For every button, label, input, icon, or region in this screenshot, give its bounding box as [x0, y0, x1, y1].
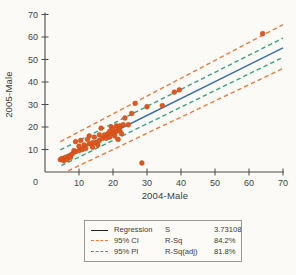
data-point — [83, 146, 88, 151]
data-point — [78, 138, 83, 143]
data-point — [126, 122, 131, 127]
data-point — [145, 104, 150, 109]
data-point — [129, 111, 134, 116]
data-point — [73, 139, 78, 144]
plot-svg: 10203040506070102030405060700 — [0, 0, 296, 215]
stat-value-rsq: 84.2% — [214, 237, 236, 245]
data-point — [87, 134, 92, 139]
ci-line-sample — [91, 240, 108, 241]
y-tick-label: 40 — [28, 77, 38, 87]
y-tick-label: 30 — [28, 100, 38, 110]
data-point — [90, 145, 95, 150]
pi-lower-line — [61, 57, 283, 165]
legend-label-ci: 95% CI — [114, 237, 165, 245]
ci-lower-line — [68, 69, 283, 171]
pi-upper-line — [60, 38, 283, 150]
stat-name-rsq: R-Sq — [165, 237, 214, 245]
data-point — [95, 143, 100, 148]
ci-upper-line — [60, 25, 283, 142]
regression-line-sample — [91, 230, 108, 231]
data-point — [119, 131, 124, 136]
x-axis-title: 2004-Male — [120, 190, 210, 201]
data-point — [123, 116, 128, 121]
data-point — [92, 135, 97, 140]
stat-value-s: 3.73108 — [214, 226, 241, 234]
y-tick-label: 20 — [28, 122, 38, 132]
x-tick-label: 70 — [278, 178, 288, 188]
y-tick-label: 10 — [28, 145, 38, 155]
origin-tick-label: 0 — [33, 177, 38, 187]
data-point — [121, 122, 126, 127]
data-point — [177, 87, 182, 92]
data-point — [99, 126, 104, 131]
legend-row-pi: 95% PI R-Sq(adj) 81.8% — [91, 248, 235, 256]
data-point — [116, 137, 121, 142]
legend-row-ci: 95% CI R-Sq 84.2% — [91, 237, 235, 245]
x-tick-label: 40 — [176, 178, 186, 188]
x-tick-label: 60 — [244, 178, 254, 188]
y-tick-label: 70 — [28, 10, 38, 20]
x-tick-label: 20 — [108, 178, 118, 188]
stat-name-rsqadj: R-Sq(adj) — [165, 248, 214, 256]
data-point — [172, 90, 177, 95]
data-point — [260, 31, 265, 36]
legend-box: Regression S 3.73108 95% CI R-Sq 84.2% 9… — [84, 220, 242, 262]
pi-line-sample — [91, 251, 108, 252]
data-point — [140, 161, 145, 166]
x-tick-label: 30 — [142, 178, 152, 188]
data-point — [133, 101, 138, 106]
x-tick-label: 10 — [74, 178, 84, 188]
y-tick-label: 60 — [28, 32, 38, 42]
legend-label-pi: 95% PI — [114, 248, 165, 256]
fitted-line-plot: 2005-Male 10203040506070102030405060700 … — [0, 0, 296, 275]
stat-name-s: S — [165, 226, 214, 234]
y-tick-label: 50 — [28, 55, 38, 65]
legend-label-regression: Regression — [114, 226, 165, 234]
data-point — [160, 103, 165, 108]
x-tick-label: 50 — [210, 178, 220, 188]
stat-value-rsqadj: 81.8% — [214, 248, 236, 256]
legend-row-regression: Regression S 3.73108 — [91, 226, 235, 234]
